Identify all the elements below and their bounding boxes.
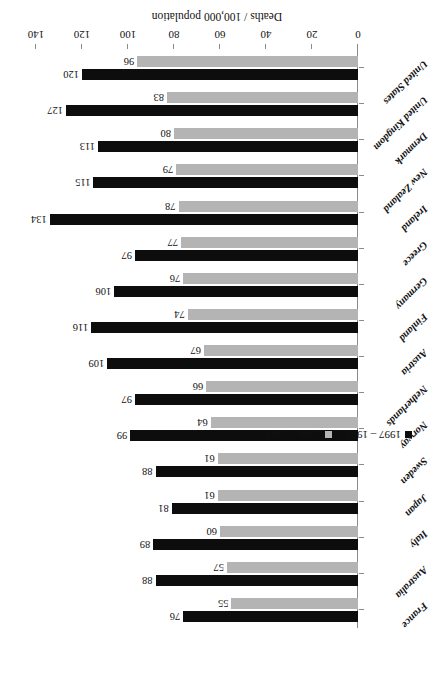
bar-group: 8861 xyxy=(36,447,358,483)
bar-series-2006-2007 xyxy=(181,237,358,248)
bar-group: 8960 xyxy=(36,520,358,556)
category-label: Greece xyxy=(401,239,430,268)
category-axis-tick xyxy=(359,248,364,249)
value-axis-tick xyxy=(127,44,128,49)
category-label: Australia xyxy=(394,564,430,600)
category-label: Sweden xyxy=(399,456,430,487)
bar-series-1997-1998 xyxy=(94,177,359,188)
bar-value-label: 83 xyxy=(154,92,165,103)
bar-value-label: 96 xyxy=(124,56,135,67)
bar-group: 9766 xyxy=(36,375,358,411)
bar-value-label: 109 xyxy=(89,358,105,369)
bar-value-label: 80 xyxy=(161,128,172,139)
value-axis-tick xyxy=(265,44,266,49)
bar-series-1997-1998 xyxy=(172,503,358,514)
value-axis-tick xyxy=(173,44,174,49)
category-label: Austria xyxy=(399,348,429,378)
value-axis-tick-label: 80 xyxy=(154,29,194,41)
bar-value-label: 61 xyxy=(204,453,215,464)
bar-series-2006-2007 xyxy=(188,309,358,320)
bar-group: 11579 xyxy=(36,158,358,194)
bar-value-label: 78 xyxy=(165,201,176,212)
bar-group: 7655 xyxy=(36,592,358,628)
value-axis-tick-label: 140 xyxy=(16,29,56,41)
category-axis-tick xyxy=(359,175,364,176)
bar-value-label: 88 xyxy=(142,466,153,477)
bar-group: 8857 xyxy=(36,556,358,592)
bar-series-2006-2007 xyxy=(167,92,358,103)
value-axis-tick-label: 60 xyxy=(200,29,240,41)
bar-value-label: 89 xyxy=(140,539,151,550)
category-axis-tick xyxy=(359,464,364,465)
bar-value-label: 64 xyxy=(197,417,208,428)
bar-series-1997-1998 xyxy=(82,69,358,80)
value-axis-tick xyxy=(35,44,36,49)
category-axis-tick xyxy=(359,356,364,357)
bar-series-1997-1998 xyxy=(156,575,358,586)
bar-series-1997-1998 xyxy=(153,539,358,550)
bar-value-label: 116 xyxy=(73,322,88,333)
value-axis-tick-label: 100 xyxy=(108,29,148,41)
bar-group: 11674 xyxy=(36,303,358,339)
bar-group: 10967 xyxy=(36,339,358,375)
bar-series-1997-1998 xyxy=(98,141,358,152)
category-axis-tick xyxy=(359,139,364,140)
bar-value-label: 134 xyxy=(31,214,47,225)
category-axis-tick xyxy=(359,392,364,393)
bar-group: 9777 xyxy=(36,231,358,267)
bar-series-2006-2007 xyxy=(218,453,358,464)
bar-series-1997-1998 xyxy=(66,105,358,116)
category-axis-tick xyxy=(359,320,364,321)
plot-area: 7655885789608161886199649766109671167410… xyxy=(36,50,358,628)
value-axis-tick xyxy=(219,44,220,49)
bar-value-label: 60 xyxy=(207,526,218,537)
chart-legend: 1997 – 19982006 – 2007 xyxy=(242,421,412,443)
value-axis-tick xyxy=(311,44,312,49)
value-axis-tick-label: 40 xyxy=(246,29,286,41)
bar-series-1997-1998 xyxy=(135,250,358,261)
category-axis-tick xyxy=(359,212,364,213)
bar-value-label: 74 xyxy=(174,309,185,320)
category-axis-tick xyxy=(359,284,364,285)
category-label: Germany xyxy=(394,275,430,311)
bar-value-label: 106 xyxy=(95,286,111,297)
bar-series-2006-2007 xyxy=(206,381,358,392)
legend-entry: 2006 – 2007 xyxy=(266,429,332,443)
bar-group: 10676 xyxy=(36,267,358,303)
bar-value-label: 115 xyxy=(75,177,90,188)
category-axis-tick xyxy=(359,573,364,574)
value-axis-tick xyxy=(357,44,358,49)
bar-value-label: 61 xyxy=(204,490,215,501)
bar-value-label: 88 xyxy=(142,575,153,586)
bar-series-2006-2007 xyxy=(174,128,358,139)
axis-title: Deaths / 100,000 population xyxy=(0,11,434,23)
bar-series-1997-1998 xyxy=(91,322,358,333)
bar-value-label: 79 xyxy=(163,164,174,175)
category-label: Italy xyxy=(408,528,430,550)
category-axis-tick xyxy=(359,428,364,429)
value-axis-tick xyxy=(81,44,82,49)
bar-value-label: 81 xyxy=(158,503,169,514)
value-axis-tick-label: 20 xyxy=(292,29,332,41)
category-axis-tick xyxy=(359,501,364,502)
category-axis-tick xyxy=(359,609,364,610)
bar-series-2006-2007 xyxy=(179,201,358,212)
value-axis-tick-label: 0 xyxy=(338,29,378,41)
bar-series-1997-1998 xyxy=(135,394,358,405)
bar-series-1997-1998 xyxy=(156,466,358,477)
bar-value-label: 120 xyxy=(63,69,79,80)
bar-value-label: 113 xyxy=(80,141,95,152)
bar-series-2006-2007 xyxy=(176,164,358,175)
bar-value-label: 127 xyxy=(47,105,63,116)
bar-value-label: 55 xyxy=(218,598,229,609)
category-label: Japan xyxy=(403,492,430,519)
bar-group: 13478 xyxy=(36,195,358,231)
bar-value-label: 97 xyxy=(121,394,132,405)
bar-value-label: 57 xyxy=(213,562,224,573)
bar-series-1997-1998 xyxy=(114,286,358,297)
bar-series-2006-2007 xyxy=(220,526,358,537)
category-axis-tick xyxy=(359,103,364,104)
bar-value-label: 77 xyxy=(167,237,178,248)
legend-swatch xyxy=(325,431,332,438)
legend-label: 2006 – 2007 xyxy=(266,429,321,441)
